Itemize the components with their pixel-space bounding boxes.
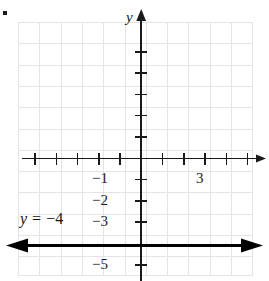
x-axis [22,154,266,162]
y-tick-label-minus-3: −3 [92,213,108,229]
x-tick-label-3: 3 [196,170,204,186]
equation-value: −4 [46,210,63,227]
plotted-line-y-equals-negative-4 [6,239,263,253]
grid-lines [18,22,253,276]
equation-variable: y [18,210,28,228]
equation-operator: = [32,210,41,227]
y-tick-label-minus-5: −5 [92,256,108,272]
y-axis-label: y [124,9,133,25]
y-tick-label-minus-1: −1 [92,170,108,186]
y-axis [136,9,146,281]
y-tick-label-minus-2: −2 [92,192,108,208]
graph-canvas: y 3 −1 −2 −3 −5 y=−4 [0,0,269,281]
coordinate-plane-figure: y 3 −1 −2 −3 −5 y=−4 [0,0,269,281]
equation-label: y=−4 [18,210,63,228]
